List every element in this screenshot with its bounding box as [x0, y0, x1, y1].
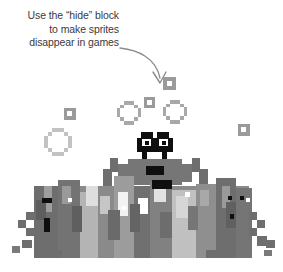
bubble-large-left [44, 128, 72, 156]
block-right [238, 124, 250, 136]
block-upper-right [163, 77, 176, 90]
illustration-root: Use the “hide” block to make sprites dis… [0, 0, 283, 272]
sprite-crowd [12, 176, 275, 258]
block-left [64, 108, 76, 120]
pixel-game-scene [0, 0, 283, 272]
bubble-mid-center [117, 101, 141, 125]
block-center-top [144, 97, 155, 108]
hero-sprite-head [137, 132, 173, 161]
bubble-mid-right [163, 100, 187, 124]
